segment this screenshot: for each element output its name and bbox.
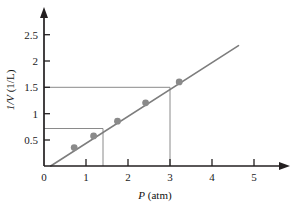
x-tick-label-2: 2 <box>125 172 131 183</box>
y-tick-label-2: 2 <box>0 56 38 67</box>
y-tick-label-0.5: 0.5 <box>0 135 38 146</box>
y-axis-ticks <box>44 35 50 140</box>
x-axis-title-symbol: P <box>138 189 145 201</box>
y-tick-label-2.5: 2.5 <box>0 29 38 40</box>
x-tick-label-5: 5 <box>251 172 257 183</box>
data-point <box>142 99 149 106</box>
data-point <box>71 144 78 151</box>
data-point <box>90 133 97 140</box>
x-tick-label-4: 4 <box>209 172 215 183</box>
x-tick-label-1: 1 <box>83 172 89 183</box>
y-axis-arrow-icon <box>40 7 48 18</box>
x-axis-title: P (atm) <box>138 189 171 201</box>
x-axis-title-unit: (atm) <box>148 189 172 201</box>
x-tick-label-0: 0 <box>41 172 47 183</box>
x-tick-label-3: 3 <box>167 172 173 183</box>
x-axis-arrow-icon <box>279 162 290 170</box>
guide-lines-group <box>44 87 170 166</box>
y-axis-title-unit: (1/L) <box>4 70 16 93</box>
data-point <box>114 118 121 125</box>
axes-group <box>40 7 290 170</box>
y-axis-title-symbol: 1/V <box>4 95 16 110</box>
chart-container: 0.5 1 1.5 2 2.5 0 1 2 3 4 5 P (atm) 1/V … <box>0 0 300 207</box>
x-axis-ticks <box>86 159 254 166</box>
data-points-group <box>71 79 183 152</box>
y-axis-title-spacer <box>4 92 16 95</box>
data-point <box>176 79 183 86</box>
y-axis-title: 1/V (1/L) <box>4 70 16 111</box>
